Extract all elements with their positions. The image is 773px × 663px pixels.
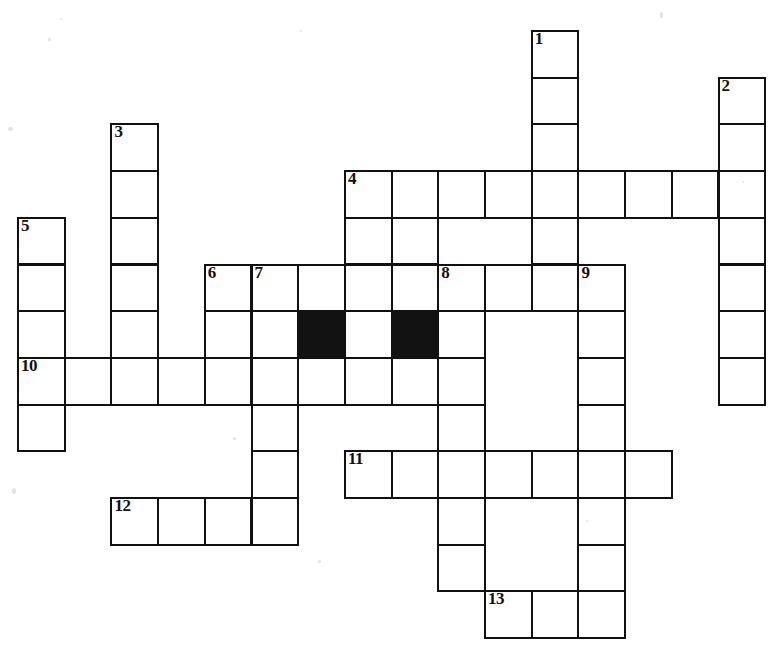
crossword-cell[interactable] — [577, 544, 626, 593]
crossword-cell[interactable]: 5 — [17, 217, 66, 266]
paper-speck — [8, 127, 13, 131]
crossword-cell[interactable] — [344, 217, 393, 266]
crossword-cell[interactable] — [110, 264, 159, 313]
crossword-cell[interactable] — [718, 217, 767, 266]
crossword-cell[interactable] — [531, 170, 580, 219]
crossword-cell[interactable] — [531, 264, 580, 313]
cell-number-8: 8 — [441, 264, 449, 282]
crossword-cell[interactable] — [157, 357, 206, 406]
crossword-cell[interactable] — [437, 357, 486, 406]
crossword-cell[interactable] — [204, 497, 253, 546]
crossword-cell[interactable]: 1 — [531, 30, 580, 79]
crossword-cell[interactable]: 3 — [110, 123, 159, 172]
crossword-cell[interactable] — [204, 310, 253, 359]
crossword-cell[interactable] — [577, 590, 626, 639]
crossword-cell[interactable] — [671, 170, 720, 219]
crossword-cell[interactable] — [251, 357, 300, 406]
cell-number-1: 1 — [535, 30, 543, 48]
crossword-cell[interactable] — [297, 357, 346, 406]
crossword-cell[interactable] — [577, 310, 626, 359]
crossword-cell[interactable]: 9 — [577, 264, 626, 313]
crossword-cell[interactable] — [718, 310, 767, 359]
crossword-cell[interactable] — [437, 310, 486, 359]
crossword-cell[interactable] — [344, 264, 393, 313]
cell-number-13: 13 — [488, 590, 504, 608]
paper-speck — [660, 12, 663, 18]
crossword-cell[interactable]: 13 — [484, 590, 533, 639]
crossword-cell[interactable] — [718, 170, 767, 219]
crossword-cell[interactable] — [157, 497, 206, 546]
crossword-cell[interactable] — [577, 497, 626, 546]
crossword-cell[interactable]: 6 — [204, 264, 253, 313]
crossword-cell[interactable] — [251, 310, 300, 359]
crossword-cell[interactable] — [577, 357, 626, 406]
paper-speck — [60, 18, 62, 20]
crossword-cell[interactable] — [64, 357, 113, 406]
crossword-cell[interactable] — [484, 170, 533, 219]
crossword-cell[interactable]: 12 — [110, 497, 159, 546]
crossword-cell[interactable] — [531, 590, 580, 639]
crossword-cell[interactable] — [437, 170, 486, 219]
crossword-cell[interactable] — [17, 404, 66, 453]
crossword-block-cell — [297, 310, 346, 359]
crossword-cell[interactable] — [577, 404, 626, 453]
cell-number-7: 7 — [255, 264, 263, 282]
cell-number-3: 3 — [114, 123, 122, 141]
crossword-cell[interactable] — [531, 77, 580, 126]
paper-speck — [742, 181, 744, 183]
crossword-cell[interactable] — [391, 264, 440, 313]
paper-speck — [48, 38, 51, 41]
crossword-cell[interactable] — [437, 544, 486, 593]
crossword-cell[interactable] — [110, 310, 159, 359]
cell-number-12: 12 — [114, 497, 130, 515]
paper-speck — [586, 520, 588, 522]
crossword-cell[interactable] — [577, 170, 626, 219]
crossword-cell[interactable] — [110, 170, 159, 219]
crossword-block-cell — [391, 310, 440, 359]
crossword-cell[interactable] — [251, 450, 300, 499]
crossword-cell[interactable] — [251, 497, 300, 546]
crossword-cell[interactable] — [624, 450, 673, 499]
cell-number-9: 9 — [581, 264, 589, 282]
crossword-cell[interactable] — [251, 404, 300, 453]
crossword-cell[interactable] — [531, 450, 580, 499]
crossword-cell[interactable] — [204, 357, 253, 406]
crossword-cell[interactable] — [344, 357, 393, 406]
crossword-cell[interactable]: 7 — [251, 264, 300, 313]
cell-number-11: 11 — [348, 450, 363, 468]
cell-number-4: 4 — [348, 170, 356, 188]
crossword-cell[interactable] — [484, 264, 533, 313]
crossword-cell[interactable] — [391, 357, 440, 406]
crossword-cell[interactable] — [718, 264, 767, 313]
crossword-cell[interactable] — [624, 170, 673, 219]
crossword-cell[interactable] — [718, 357, 767, 406]
crossword-cell[interactable] — [297, 264, 346, 313]
crossword-cell[interactable] — [437, 450, 486, 499]
crossword-cell[interactable] — [391, 450, 440, 499]
crossword-cell[interactable] — [110, 217, 159, 266]
crossword-cell[interactable] — [437, 497, 486, 546]
crossword-cell[interactable]: 2 — [718, 77, 767, 126]
crossword-cell[interactable] — [437, 404, 486, 453]
crossword-cell[interactable] — [391, 217, 440, 266]
crossword-cell[interactable]: 10 — [17, 357, 66, 406]
crossword-cell[interactable]: 11 — [344, 450, 393, 499]
crossword-cell[interactable] — [391, 170, 440, 219]
crossword-cell[interactable] — [718, 123, 767, 172]
crossword-cell[interactable] — [110, 357, 159, 406]
crossword-grid: 12345678910111213 — [0, 0, 773, 663]
paper-speck — [233, 437, 236, 440]
crossword-cell[interactable] — [577, 450, 626, 499]
paper-speck — [318, 560, 321, 563]
crossword-cell[interactable] — [484, 450, 533, 499]
crossword-cell[interactable] — [531, 217, 580, 266]
crossword-cell[interactable] — [17, 310, 66, 359]
paper-speck — [12, 488, 16, 494]
crossword-cell[interactable]: 4 — [344, 170, 393, 219]
crossword-cell[interactable] — [531, 123, 580, 172]
crossword-cell[interactable] — [344, 310, 393, 359]
cell-number-5: 5 — [21, 217, 29, 235]
cell-number-6: 6 — [208, 264, 216, 282]
crossword-cell[interactable]: 8 — [437, 264, 486, 313]
crossword-cell[interactable] — [17, 264, 66, 313]
